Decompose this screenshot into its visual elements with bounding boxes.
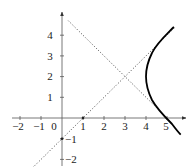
y-label-3: 3 (47, 50, 53, 62)
y-label-4: 4 (47, 29, 53, 41)
y-label-1: 1 (47, 91, 53, 103)
hyperbola-branch (146, 27, 181, 135)
x-label-3: 3 (122, 120, 128, 132)
x-label-2: 2 (101, 120, 107, 132)
hyperbola-chart: −2 −1 0 1 2 3 4 5 1 2 3 4 −1 −2 (0, 0, 191, 167)
x-label-4: 4 (143, 120, 149, 132)
x-tick-labels: −2 −1 0 1 2 3 4 5 (12, 120, 169, 132)
asymptote-y-intercept-dot (61, 137, 64, 140)
y-label-neg2: −2 (65, 153, 77, 165)
y-label-2: 2 (47, 70, 53, 82)
x-label-1: 1 (80, 120, 86, 132)
y-label-neg1: −1 (65, 133, 77, 145)
chart-svg: −2 −1 0 1 2 3 4 5 1 2 3 4 −1 −2 (0, 0, 191, 167)
x-label-neg1: −1 (33, 120, 45, 132)
x-label-0: 0 (51, 120, 57, 132)
x-label-5: 5 (163, 120, 169, 132)
x-label-neg2: −2 (12, 120, 24, 132)
asymptote-x-intercept-dot (82, 117, 85, 120)
